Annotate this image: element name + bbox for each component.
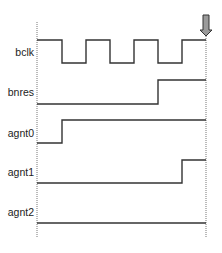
waveform-agnt1 <box>37 160 206 183</box>
signal-label-agnt1: agnt1 <box>2 166 34 178</box>
signal-label-bnres: bnres <box>2 86 34 98</box>
waveform-bnres <box>37 80 206 104</box>
waveform-agnt0 <box>37 120 206 143</box>
signal-label-bclk: bclk <box>2 46 34 58</box>
down-arrow-icon <box>200 15 212 36</box>
waveform-bclk <box>37 40 206 63</box>
signal-label-agnt0: agnt0 <box>2 127 34 139</box>
signal-label-agnt2: agnt2 <box>2 206 34 218</box>
